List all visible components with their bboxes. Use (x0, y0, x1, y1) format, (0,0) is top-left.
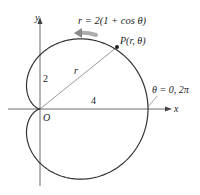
point-label: P(r, θ) (120, 36, 145, 46)
x-axis-arrow-icon (165, 107, 172, 112)
cardioid-diagram (0, 0, 200, 195)
radius-line (40, 47, 117, 109)
angle-leader-line (148, 96, 157, 107)
radius-label: r (74, 66, 78, 76)
x-intercept-label: 4 (91, 96, 96, 106)
y-axis-label: y (35, 13, 39, 23)
point-p (115, 45, 119, 49)
x-axis-label: x (174, 104, 178, 114)
direction-arrowhead-icon (74, 28, 82, 38)
equation-label: r = 2(1 + cos θ) (78, 16, 146, 27)
origin-label: O (43, 113, 50, 123)
y-intercept-label: 2 (43, 74, 48, 84)
angle-label: θ = 0, 2π (152, 85, 189, 95)
